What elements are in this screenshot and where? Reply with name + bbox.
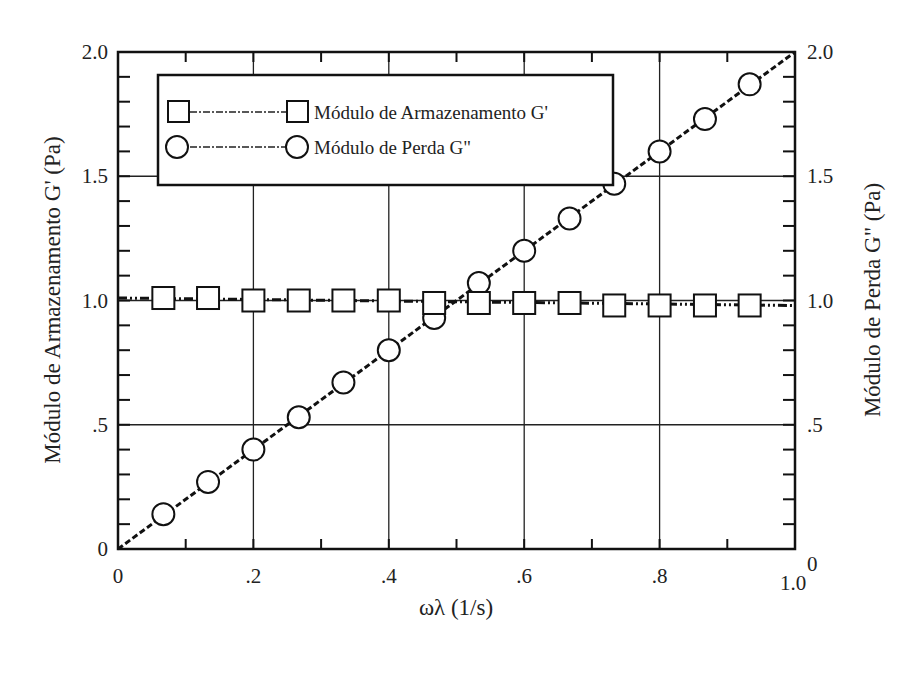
legend-square-icon — [168, 101, 189, 122]
y-left-tick-label: 1.5 — [82, 164, 108, 188]
loss-modulus-point — [152, 503, 174, 525]
y-left-axis-title: Módulo de Armazenamento G' (Pa) — [40, 136, 65, 463]
storage-modulus-point — [197, 287, 219, 309]
y-right-tick-label: 1.5 — [807, 164, 833, 188]
loss-modulus-point — [694, 108, 716, 130]
storage-modulus-point — [513, 292, 535, 314]
storage-modulus-point — [649, 294, 671, 316]
y-left-tick-label: 1.0 — [82, 289, 108, 313]
y-left-tick-label: 2.0 — [82, 40, 108, 64]
storage-modulus-point — [423, 292, 445, 314]
loss-modulus-point — [288, 406, 310, 428]
loss-modulus-point — [242, 439, 264, 461]
storage-modulus-point — [694, 294, 716, 316]
legend-square-icon — [287, 101, 308, 122]
storage-modulus-point — [468, 292, 490, 314]
y-left-tick-label: .5 — [92, 413, 108, 437]
loss-modulus-point — [468, 272, 490, 294]
x-axis-title: ωλ (1/s) — [419, 595, 493, 620]
loss-modulus-point — [739, 73, 761, 95]
y-left-tick-label: 0 — [98, 537, 109, 561]
loss-modulus-point — [649, 140, 671, 162]
x-tick-label: .6 — [516, 564, 532, 588]
legend: Módulo de Armazenamento G' Módulo de Per… — [158, 75, 613, 185]
legend-circle-icon — [286, 136, 308, 158]
x-tick-label: .2 — [246, 564, 262, 588]
storage-modulus-point — [739, 294, 761, 316]
storage-modulus-point — [152, 287, 174, 309]
legend-label-loss: Módulo de Perda G" — [314, 137, 471, 158]
y-right-tick-label: 1.0 — [807, 289, 833, 313]
storage-modulus-point — [332, 290, 354, 312]
x-tick-label: .4 — [381, 564, 397, 588]
storage-modulus-point — [559, 292, 581, 314]
loss-modulus-point — [513, 240, 535, 262]
loss-modulus-point — [559, 207, 581, 229]
y-right-tick-labels: 0.51.01.52.0 — [807, 40, 833, 576]
x-tick-label: 0 — [113, 564, 124, 588]
legend-circle-icon — [166, 136, 188, 158]
chart-canvas: 0.2.4.6.81.0 0.51.01.52.0 0.51.01.52.0 ω… — [0, 0, 917, 683]
legend-label-storage: Módulo de Armazenamento G' — [314, 102, 548, 123]
x-tick-labels: 0.2.4.6.81.0 — [113, 564, 806, 595]
storage-modulus-point — [242, 290, 264, 312]
y-left-tick-labels: 0.51.01.52.0 — [82, 40, 108, 561]
loss-modulus-point — [197, 471, 219, 493]
storage-modulus-point — [603, 294, 625, 316]
storage-modulus-point — [288, 290, 310, 312]
x-tick-label: 1.0 — [780, 571, 806, 595]
x-tick-label: .8 — [652, 564, 668, 588]
y-right-tick-label: 0 — [807, 552, 818, 576]
y-right-tick-label: 2.0 — [807, 40, 833, 64]
y-right-axis-title: Módulo de Perda G" (Pa) — [860, 183, 885, 417]
loss-modulus-point — [332, 372, 354, 394]
y-right-tick-label: .5 — [807, 413, 823, 437]
loss-modulus-point — [378, 339, 400, 361]
storage-modulus-point — [378, 290, 400, 312]
legend-box — [158, 75, 613, 185]
